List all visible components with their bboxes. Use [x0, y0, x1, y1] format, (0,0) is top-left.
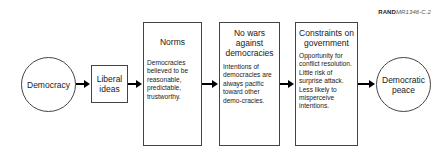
- node-democracy-label: Democracy: [27, 80, 70, 90]
- credit-code: MR1346-C.2: [396, 9, 431, 15]
- node-constraints: Constraints on government Opportunity fo…: [295, 22, 358, 146]
- node-norms-title: Norms: [147, 37, 198, 47]
- node-constraints-title: Constraints on government: [299, 28, 354, 48]
- arrow-constraints-to-democratic-peace: [358, 83, 371, 85]
- arrow-norms-to-no-wars: [202, 83, 214, 85]
- node-democratic-peace-label: Democratic peace: [377, 75, 430, 95]
- credit-org: RAND: [378, 9, 396, 15]
- figure-credit: RANDMR1346-C.2: [378, 9, 431, 15]
- arrow-no-wars-to-constraints: [280, 83, 290, 85]
- node-no-wars: No wars against democracies Intentions o…: [219, 22, 280, 146]
- node-constraints-body: Opportunity for conflict resolution. Lit…: [299, 52, 354, 111]
- node-liberal-ideas-label: Liberal ideas: [92, 74, 127, 94]
- arrow-democracy-to-liberal-ideas: [76, 83, 86, 85]
- node-norms-body: Democracies believed to be reasonable, p…: [147, 59, 198, 101]
- node-liberal-ideas: Liberal ideas: [91, 65, 128, 103]
- node-no-wars-title: No wars against democracies: [223, 28, 276, 58]
- node-norms: Norms Democracies believed to be reasona…: [143, 22, 202, 146]
- node-no-wars-body: Intentions of democracies are always pac…: [223, 63, 276, 105]
- node-democratic-peace: Democratic peace: [376, 57, 431, 112]
- arrow-liberal-ideas-to-norms: [128, 83, 138, 85]
- node-democracy: Democracy: [21, 57, 76, 112]
